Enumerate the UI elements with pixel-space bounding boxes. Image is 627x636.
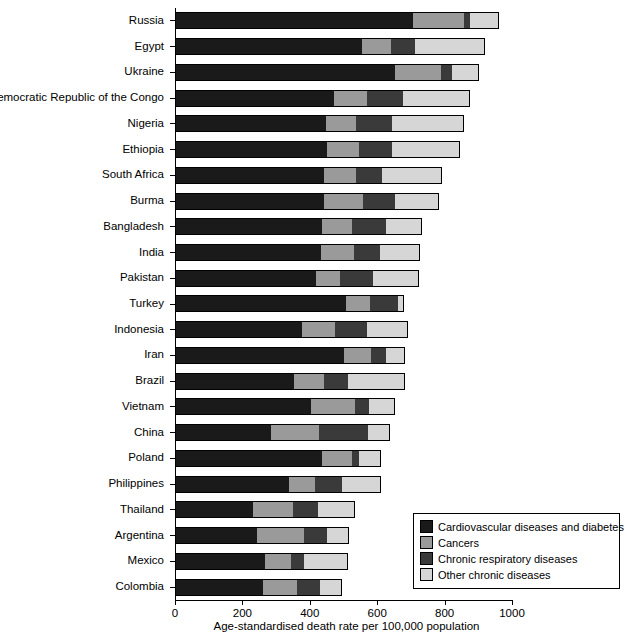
x-axis-tick bbox=[175, 600, 176, 605]
x-axis-title-text: Age-standardised death rate per 100,000 … bbox=[214, 620, 480, 632]
x-axis-tick-label: 0 bbox=[172, 607, 178, 619]
legend-swatch-icon bbox=[420, 552, 433, 565]
y-axis-tick bbox=[170, 201, 175, 202]
legend-swatch-icon bbox=[420, 568, 433, 581]
x-axis-tick bbox=[310, 600, 311, 605]
y-axis-tick bbox=[170, 98, 175, 99]
x-axis-tick-label: 600 bbox=[368, 607, 387, 619]
y-axis-tick bbox=[170, 587, 175, 588]
y-axis-tick bbox=[170, 20, 175, 21]
y-axis-tick bbox=[170, 252, 175, 253]
x-axis-title: Age-standardised death rate per 100,000 … bbox=[0, 620, 627, 632]
x-axis-tick-label: 400 bbox=[300, 607, 319, 619]
y-axis-tick bbox=[170, 226, 175, 227]
x-axis-tick bbox=[512, 600, 513, 605]
y-axis-tick bbox=[170, 406, 175, 407]
stacked-bar-chart: RussiaEgyptUkraineDemocratic Republic of… bbox=[0, 0, 627, 636]
y-axis-tick bbox=[170, 278, 175, 279]
y-axis-tick bbox=[170, 355, 175, 356]
legend-item: Chronic respiratory diseases bbox=[420, 551, 613, 566]
legend-swatch-icon bbox=[420, 536, 433, 549]
x-axis-tick-label: 200 bbox=[233, 607, 252, 619]
y-axis-tick bbox=[170, 304, 175, 305]
legend-item: Cardiovascular diseases and diabetes bbox=[420, 519, 613, 534]
legend-label: Chronic respiratory diseases bbox=[438, 553, 577, 565]
y-axis-tick bbox=[170, 149, 175, 150]
y-axis-tick bbox=[170, 561, 175, 562]
legend-label: Cancers bbox=[438, 537, 479, 549]
y-axis-tick bbox=[170, 509, 175, 510]
x-axis-tick bbox=[242, 600, 243, 605]
y-axis-tick bbox=[170, 535, 175, 536]
y-axis-tick bbox=[170, 432, 175, 433]
legend-item: Cancers bbox=[420, 535, 613, 550]
legend-item: Other chronic diseases bbox=[420, 567, 613, 582]
y-axis-tick bbox=[170, 484, 175, 485]
y-axis-tick bbox=[170, 72, 175, 73]
x-axis-tick bbox=[445, 600, 446, 605]
y-axis-tick bbox=[170, 329, 175, 330]
legend-label: Cardiovascular diseases and diabetes bbox=[438, 521, 624, 533]
y-axis-tick bbox=[170, 175, 175, 176]
y-axis-tick bbox=[170, 46, 175, 47]
y-axis-tick bbox=[170, 458, 175, 459]
y-axis-tick bbox=[170, 123, 175, 124]
x-axis-tick-label: 800 bbox=[435, 607, 454, 619]
x-axis-tick bbox=[377, 600, 378, 605]
y-axis-tick bbox=[170, 381, 175, 382]
x-axis-tick-label: 1000 bbox=[499, 607, 525, 619]
legend-label: Other chronic diseases bbox=[438, 569, 551, 581]
legend: Cardiovascular diseases and diabetesCanc… bbox=[413, 513, 620, 589]
legend-swatch-icon bbox=[420, 520, 433, 533]
